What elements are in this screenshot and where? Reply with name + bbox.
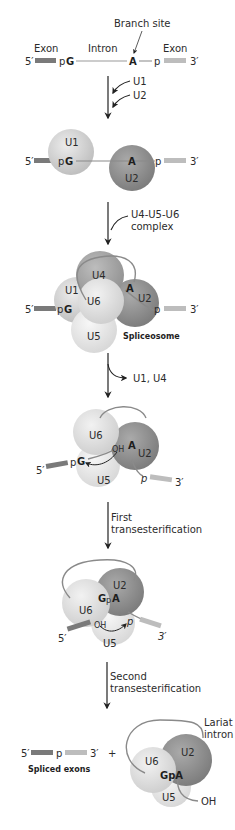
five-prime-label: 5′ bbox=[36, 465, 45, 476]
three-prime-label: 3′ bbox=[90, 748, 99, 759]
step-first-transesterification: First transesterification bbox=[108, 502, 202, 548]
step-second-transesterification: Second transesterification bbox=[107, 662, 201, 708]
pg-p: p bbox=[70, 457, 76, 468]
branch-site-pointer bbox=[134, 31, 142, 53]
exon-3-bar bbox=[150, 474, 172, 482]
branch-a: A bbox=[128, 156, 136, 167]
u2-label: U2 bbox=[138, 448, 152, 459]
stage-spliceosome: 5′ U1 U4 U6 U5 A U2 p G p 3′ Spliceosome bbox=[25, 251, 199, 353]
lariat-label: Lariat bbox=[204, 717, 233, 728]
u2-label: U2 bbox=[125, 173, 139, 184]
p-3: p bbox=[154, 304, 160, 315]
join-arrow bbox=[111, 216, 128, 230]
u2-snrnp bbox=[109, 145, 155, 191]
step-add-u4-u5-u6: U4-U5-U6 complex bbox=[108, 202, 179, 244]
u1-u4-label: U1, U4 bbox=[133, 373, 167, 384]
exon-5-bar bbox=[31, 750, 53, 755]
stage-activated: 5′ U6 OH A U2 p G U5 p 3′ bbox=[36, 407, 184, 488]
complex-label: complex bbox=[131, 221, 173, 232]
pg-g: G bbox=[66, 56, 74, 67]
exon-right-label: Exon bbox=[163, 43, 187, 54]
exon-3-bar bbox=[164, 158, 186, 163]
five-prime-label: 5′ bbox=[58, 633, 67, 644]
u5-label: U5 bbox=[97, 475, 111, 486]
plus-sign: + bbox=[108, 748, 116, 759]
three-prime-label: 3′ bbox=[158, 631, 167, 642]
u1-label: U1 bbox=[65, 137, 79, 148]
exon-5-bar bbox=[35, 58, 56, 63]
u6-label: U6 bbox=[79, 605, 93, 616]
splicing-diagram: Branch site Exon Intron Exon 5′ p G A p … bbox=[0, 0, 235, 830]
step-release-u1-u4: U1, U4 bbox=[108, 353, 167, 397]
u6-label: U6 bbox=[145, 756, 159, 767]
u4-u5-u6-label: U4-U5-U6 bbox=[131, 209, 179, 220]
branch-site-label: Branch site bbox=[114, 18, 171, 29]
u1-snrnp bbox=[48, 129, 94, 175]
stage-products: 5′ p 3′ + Spliced exons U6 U2 GpA U5 OH … bbox=[21, 717, 233, 807]
u5-label: U5 bbox=[87, 331, 101, 342]
a-label: A bbox=[112, 593, 120, 604]
p-mid-label: p bbox=[106, 596, 111, 605]
lariat-intron: U6 U2 GpA U5 OH Lariat intron bbox=[126, 717, 233, 807]
u2-label: U2 bbox=[138, 293, 152, 304]
u1-label: U1 bbox=[65, 285, 79, 296]
intron-label: intron bbox=[204, 729, 233, 740]
branch-a: A bbox=[129, 56, 137, 67]
spliced-exons-caption: Spliced exons bbox=[28, 765, 90, 774]
second-label: Second bbox=[110, 671, 147, 682]
exon-left-label: Exon bbox=[34, 43, 58, 54]
branch-a: A bbox=[126, 283, 134, 294]
transesterification-label: transesterification bbox=[110, 683, 201, 694]
five-prime-label: 5′ bbox=[25, 56, 34, 67]
p-label: p bbox=[56, 748, 62, 759]
three-prime-label: 3′ bbox=[175, 477, 184, 488]
exon-3-bar bbox=[139, 617, 161, 629]
intron-label: Intron bbox=[88, 43, 118, 54]
spliceosome-caption: Spliceosome bbox=[123, 332, 180, 341]
u2-label: U2 bbox=[133, 90, 147, 101]
oh-label: OH bbox=[112, 445, 124, 454]
pg-g: G bbox=[77, 456, 85, 467]
g-label: G bbox=[98, 593, 106, 604]
u1-join-arrow bbox=[113, 81, 130, 93]
first-label: First bbox=[111, 512, 132, 523]
pg-p: p bbox=[57, 304, 63, 315]
p-3: p bbox=[126, 616, 133, 627]
exon-3-bar bbox=[164, 306, 186, 311]
stage-first-product: 5′ U2 G p A U6 OH p 3′ U5 bbox=[58, 560, 167, 649]
pg-g: G bbox=[65, 156, 73, 167]
three-prime-label: 3′ bbox=[190, 304, 199, 315]
p-3: p bbox=[154, 56, 160, 67]
five-prime-label: 5′ bbox=[25, 304, 34, 315]
five-prime-label: 5′ bbox=[21, 748, 30, 759]
gpa-label: GpA bbox=[160, 770, 183, 781]
oh-label: OH bbox=[201, 796, 216, 807]
u4-label: U4 bbox=[92, 270, 106, 281]
u6-snrnp bbox=[78, 278, 124, 324]
spliced-exons: 5′ p 3′ + Spliced exons bbox=[21, 748, 116, 774]
u6-label: U6 bbox=[89, 430, 103, 441]
three-prime-label: 3′ bbox=[190, 56, 199, 67]
exon-5-bar bbox=[34, 306, 56, 311]
u1-label: U1 bbox=[133, 76, 147, 87]
five-prime-label: 5′ bbox=[25, 156, 34, 167]
release-arrow bbox=[108, 364, 126, 378]
exon-5-bar bbox=[46, 460, 69, 469]
u5-label: U5 bbox=[162, 792, 176, 803]
p-3: p bbox=[140, 473, 147, 484]
pg-g: G bbox=[64, 304, 72, 315]
exon-3-bar bbox=[164, 58, 186, 63]
exon-3-bar bbox=[65, 750, 87, 755]
pg-p: p bbox=[58, 156, 64, 167]
oh-label: OH bbox=[94, 621, 106, 630]
stage-pre-mrna: Branch site Exon Intron Exon 5′ p G A p … bbox=[25, 18, 199, 67]
u5-label: U5 bbox=[103, 638, 117, 649]
step-add-u1-u2: U1 U2 bbox=[108, 76, 147, 118]
u2-join-arrow bbox=[113, 95, 130, 107]
pg-p: p bbox=[59, 56, 65, 67]
p-3: p bbox=[155, 156, 161, 167]
three-prime-label: 3′ bbox=[190, 156, 199, 167]
branch-a: A bbox=[128, 440, 136, 451]
u2-label: U2 bbox=[181, 747, 195, 758]
transesterification-label: transesterification bbox=[111, 524, 202, 535]
